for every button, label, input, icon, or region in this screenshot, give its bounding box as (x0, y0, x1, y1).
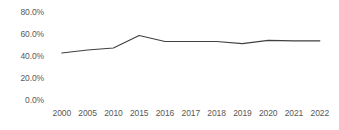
series-line (62, 35, 320, 53)
x-axis: 2000 2005 2010 2015 2016 2017 2018 2019 … (48, 106, 339, 128)
x-axis-tick-label: 2018 (207, 109, 226, 118)
x-axis-tick-label: 2000 (53, 109, 72, 118)
y-axis-tick-label: 60.0% (0, 30, 44, 39)
y-axis-tick-label: 80.0% (0, 8, 44, 17)
x-axis-tick-label: 2022 (311, 109, 330, 118)
series-line-svg (48, 0, 339, 104)
y-axis-tick-label: 20.0% (0, 74, 44, 83)
line-chart: 80.0% 60.0% 40.0% 20.0% 0.0% 2000 2005 2… (0, 0, 339, 130)
plot-area (48, 0, 339, 104)
x-axis-tick-label: 2016 (156, 109, 175, 118)
x-axis-tick-label: 2005 (78, 109, 97, 118)
y-axis-tick-label: 0.0% (0, 96, 44, 105)
x-axis-tick-label: 2015 (130, 109, 149, 118)
x-axis-tick-label: 2017 (182, 109, 201, 118)
y-axis-tick-label: 40.0% (0, 52, 44, 61)
x-axis-tick-label: 2020 (259, 109, 278, 118)
y-axis: 80.0% 60.0% 40.0% 20.0% 0.0% (0, 0, 48, 130)
x-axis-tick-label: 2021 (285, 109, 304, 118)
x-axis-tick-label: 2010 (104, 109, 123, 118)
x-axis-tick-label: 2019 (233, 109, 252, 118)
